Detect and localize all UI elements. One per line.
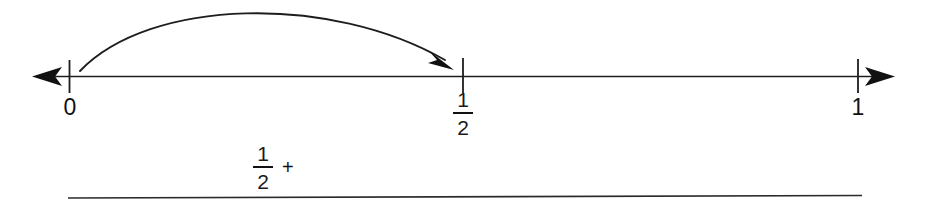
answer-rule [68,196,862,199]
tick-label-one-half-numerator: 1 [455,89,471,111]
expression-plus-operator: + [282,157,294,179]
tick-label-1: 1 [852,96,865,119]
expression-row: 1 2 + [253,143,294,192]
tick-label-0: 0 [64,96,77,119]
tick-label-one-half-fraction-bar [453,112,473,114]
tick-label-one-half: 1 2 [453,89,473,138]
tick-label-one-half-denominator: 2 [455,116,471,138]
expression-numerator: 1 [255,143,271,165]
expression-denominator: 2 [255,170,271,192]
expression-fraction-one-half: 1 2 [253,143,273,192]
number-line-figure: 0 1 2 1 1 2 + [0,0,927,213]
expression-fraction-bar [253,166,273,168]
jump-arc-arrowhead [428,50,454,70]
jump-arc-path [80,13,445,71]
